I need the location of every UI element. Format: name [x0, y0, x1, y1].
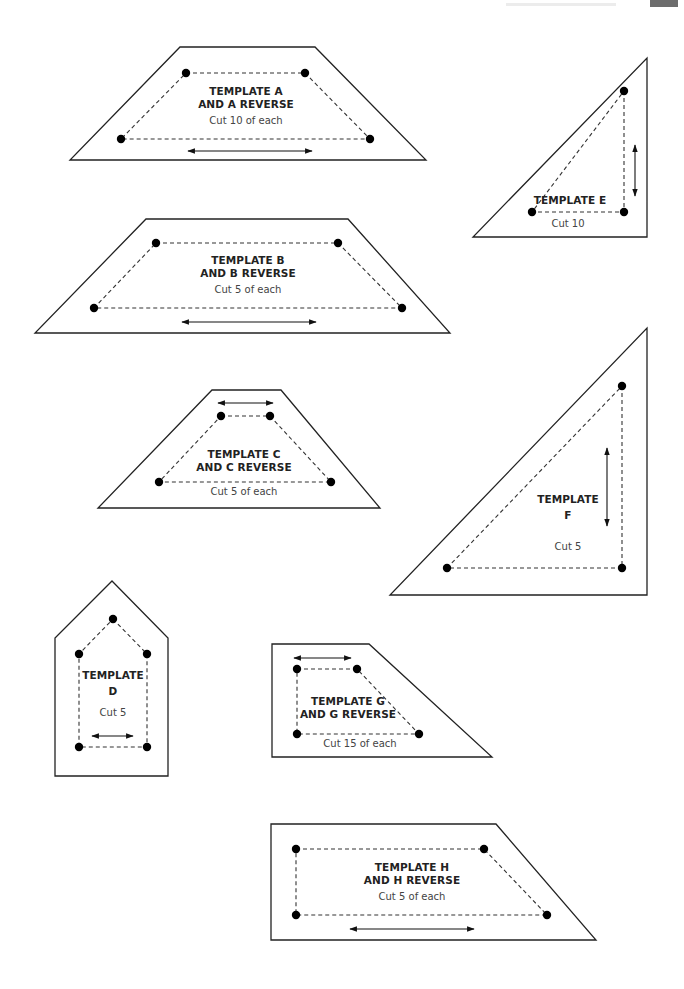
- template-c-cut: Cut 5 of each: [211, 486, 278, 497]
- template-e-cut: Cut 10: [551, 218, 584, 229]
- template-g-label: TEMPLATE G AND G REVERSE: [300, 695, 396, 720]
- template-e-label: TEMPLATE E: [534, 194, 607, 207]
- template-f-label: TEMPLATE F: [537, 493, 599, 521]
- template-h-label: TEMPLATE H AND H REVERSE Cut 5 of each: [364, 861, 460, 903]
- template-e-title: TEMPLATE E: [534, 194, 607, 207]
- template-b-label: TEMPLATE B AND B REVERSE Cut 5 of each: [200, 254, 296, 296]
- template-h-cut: Cut 5 of each: [364, 891, 460, 903]
- template-f-outline: [390, 328, 647, 595]
- template-d-label: TEMPLATE D: [82, 669, 144, 697]
- template-h-subtitle: AND H REVERSE: [364, 874, 460, 887]
- template-b-subtitle: AND B REVERSE: [200, 267, 296, 280]
- template-f-title: TEMPLATE: [537, 493, 599, 506]
- template-d-subtitle: D: [82, 685, 144, 698]
- template-c-title: TEMPLATE C: [196, 448, 291, 461]
- template-g-subtitle: AND G REVERSE: [300, 708, 396, 721]
- template-d-cut: Cut 5: [100, 707, 127, 718]
- template-d-title: TEMPLATE: [82, 669, 144, 682]
- template-a-label: TEMPLATE A AND A REVERSE Cut 10 of each: [198, 85, 294, 127]
- template-h-title: TEMPLATE H: [364, 861, 460, 874]
- template-a-title: TEMPLATE A: [198, 85, 294, 98]
- template-f-subtitle: F: [537, 509, 599, 522]
- template-c-label: TEMPLATE C AND C REVERSE: [196, 448, 291, 473]
- template-b-title: TEMPLATE B: [200, 254, 296, 267]
- template-a-cut: Cut 10 of each: [198, 115, 294, 127]
- template-a-subtitle: AND A REVERSE: [198, 98, 294, 111]
- template-c-subtitle: AND C REVERSE: [196, 461, 291, 474]
- template-page: TEMPLATE A AND A REVERSE Cut 10 of each …: [0, 0, 684, 989]
- template-f-cut: Cut 5: [555, 541, 582, 552]
- template-b-cut: Cut 5 of each: [200, 284, 296, 296]
- template-g-cut: Cut 15 of each: [323, 738, 396, 749]
- template-g-title: TEMPLATE G: [300, 695, 396, 708]
